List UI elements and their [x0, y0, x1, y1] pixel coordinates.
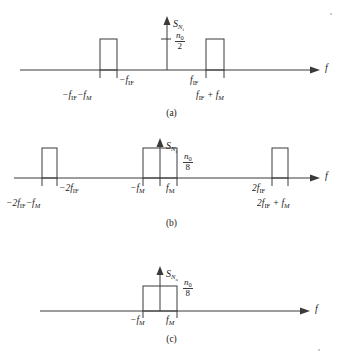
x-axis-label-a: f: [325, 63, 328, 73]
caption-c: (c): [0, 334, 343, 344]
level-value-a: n0 2: [175, 31, 185, 52]
panel-b: SNi n0 8 f −2fIF −2fIF−fM −fM fM 2fIF 2f…: [0, 130, 343, 255]
figure-container: SNi n0 2 f −fIF −fIF−fM fIF fIF + fM (a): [0, 0, 343, 363]
tick-label-neg-2fif-minus-fm-b: −2fIF−fM: [6, 199, 40, 209]
tick-label-fm-c: fM: [166, 316, 174, 326]
level-denominator-c: 8: [183, 289, 193, 299]
tick-label-fm-b: fM: [166, 184, 175, 194]
tick-label-2fif-b: 2fIF: [252, 184, 265, 194]
x-axis-label-c: f: [315, 304, 318, 314]
x-axis-arrowhead-b: [310, 175, 320, 182]
tick-label-neg-fm-c: −fM: [130, 316, 145, 326]
level-numerator-c: n0: [183, 278, 193, 289]
level-value-b: n0 8: [183, 152, 193, 173]
x-axis-arrowhead-c: [300, 308, 310, 315]
level-denominator-a: 2: [175, 42, 185, 52]
panel-c: SNo n0 8 f −fM fM (c): [0, 255, 343, 363]
y-axis-arrowhead-a: [164, 16, 171, 25]
tick-label-2fif-plus-fm-b: 2fIF + fM: [257, 199, 290, 209]
y-axis-arrowhead-b: [157, 138, 164, 147]
scan-speck: [318, 349, 320, 351]
pulse-negative-if: [100, 39, 117, 70]
level-numerator-a: n0: [175, 31, 185, 42]
tick-label-fif-plus-fm-a: fIF + fM: [196, 91, 224, 101]
panel-a: SNi n0 2 f −fIF −fIF−fM fIF fIF + fM (a): [0, 0, 343, 130]
level-numerator-b: n0: [183, 152, 193, 163]
y-axis-label-c: SNo: [166, 269, 178, 279]
scan-speck: [330, 13, 332, 15]
x-axis-arrowhead-a: [310, 67, 320, 74]
tick-label-fif-a: fIF: [190, 76, 199, 86]
pulse-positive-if: [206, 39, 224, 70]
pulse-negative-2if: [42, 148, 57, 178]
pulse-positive-2if: [272, 148, 288, 178]
tick-label-neg-fif-minus-fm-a: −fIF−fM: [62, 91, 92, 101]
caption-b: (b): [0, 218, 343, 228]
tick-label-neg-fm-b: −fM: [130, 184, 145, 194]
y-axis-label-a: SNi: [173, 19, 184, 29]
x-axis-label-b: f: [325, 171, 328, 181]
level-value-c: n0 8: [183, 278, 193, 299]
tick-label-neg-fif-a: −fIF: [119, 76, 134, 86]
y-axis-label-b: SNi: [166, 141, 177, 151]
y-axis-arrowhead-c: [157, 266, 164, 275]
level-denominator-b: 8: [183, 163, 193, 173]
caption-a: (a): [0, 108, 343, 118]
tick-label-neg-2fif-b: −2fIF: [59, 184, 79, 194]
